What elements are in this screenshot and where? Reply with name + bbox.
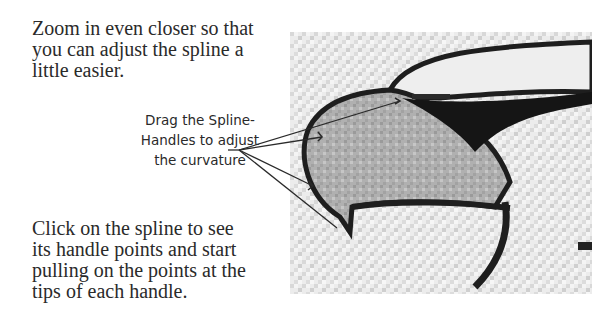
instruction-top-text: Zoom in even closer so that you can adju… bbox=[32, 18, 272, 81]
callout-label: Drag the Spline- Handles to adjust the c… bbox=[130, 110, 270, 170]
eagle-beak-image bbox=[290, 32, 592, 294]
instruction-bottom-text: Click on the spline to see its handle po… bbox=[32, 218, 272, 302]
